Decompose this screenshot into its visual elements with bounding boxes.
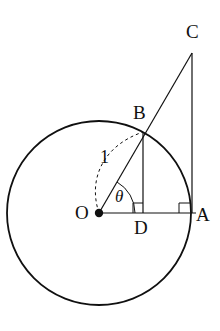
vertex-label-c: C [186, 22, 199, 41]
segment-oc [99, 53, 192, 213]
vertex-label-o: O [75, 203, 89, 222]
geometry-canvas [0, 0, 220, 331]
angle-theta-label: θ [115, 188, 123, 205]
vertex-label-d: D [134, 218, 148, 237]
vertex-label-a: A [196, 205, 210, 224]
radius-length-label: 1 [100, 148, 109, 166]
center-point-dot [95, 209, 103, 217]
vertex-label-b: B [133, 103, 146, 122]
right-angle-mark-a [179, 203, 191, 213]
geometry-figure: O A B C D 1 θ [0, 0, 220, 331]
